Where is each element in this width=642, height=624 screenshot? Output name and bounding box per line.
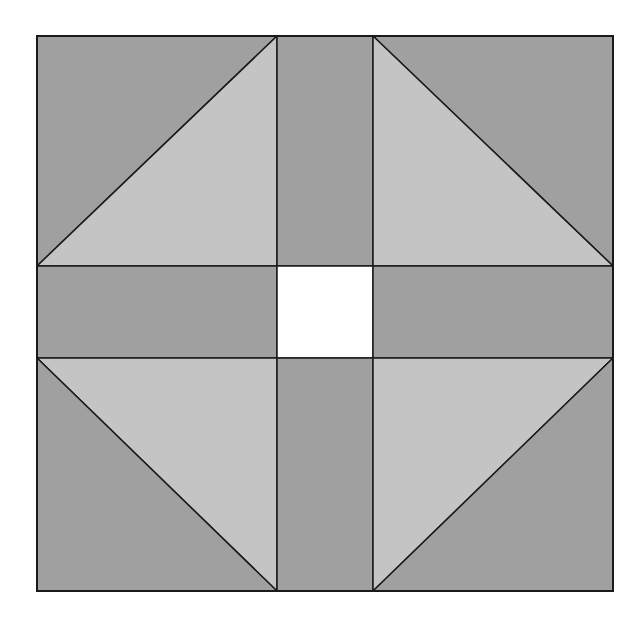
bottom-middle-piece (277, 358, 373, 591)
quilt-block-diagram (0, 0, 642, 624)
center-piece (277, 266, 373, 358)
quilt-pieces (37, 36, 613, 591)
middle-left-piece (37, 266, 277, 358)
middle-right-piece (373, 266, 613, 358)
top-middle-piece (277, 36, 373, 266)
